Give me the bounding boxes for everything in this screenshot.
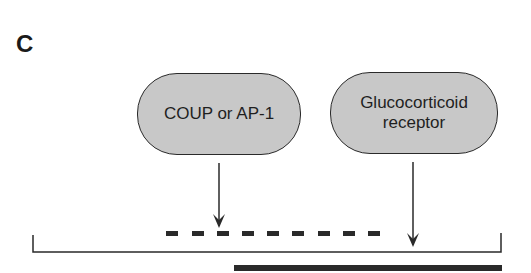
arrow-gr: [407, 162, 419, 247]
arrow-coup: [213, 163, 225, 228]
solid-bar: [234, 265, 502, 271]
diagram-graphics: [0, 0, 531, 273]
dashed-element: [166, 231, 380, 236]
